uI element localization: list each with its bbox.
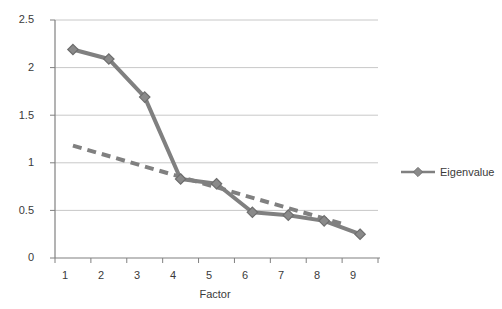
x-tick-label-1: 1 bbox=[55, 270, 75, 281]
plot-area bbox=[0, 0, 502, 309]
x-tick-label-9: 9 bbox=[343, 270, 363, 281]
y-tick-label-1.5: 1.5 bbox=[6, 110, 34, 121]
x-tick-label-4: 4 bbox=[163, 270, 183, 281]
trend-line-dashed bbox=[73, 146, 342, 224]
data-point-marker bbox=[68, 44, 78, 54]
y-tick-label-0.5: 0.5 bbox=[6, 205, 34, 216]
y-tick-label-0: 0 bbox=[6, 252, 34, 263]
y-tick-label-1: 1 bbox=[6, 157, 34, 168]
eigenvalue-line bbox=[73, 50, 360, 235]
data-point-marker bbox=[355, 229, 365, 239]
x-tick-label-6: 6 bbox=[235, 270, 255, 281]
y-tick-label-2.5: 2.5 bbox=[6, 14, 34, 25]
legend-label-eigenvalue: Eigenvalue bbox=[440, 166, 494, 178]
x-tick-label-8: 8 bbox=[307, 270, 327, 281]
scree-plot-chart: 2.5 2 1.5 1 0.5 0 1 2 3 4 5 6 7 8 9 Fact… bbox=[0, 0, 502, 309]
x-tick-label-3: 3 bbox=[127, 270, 147, 281]
x-tick-label-7: 7 bbox=[271, 270, 291, 281]
y-tick-label-2: 2 bbox=[6, 62, 34, 73]
legend-marker-icon bbox=[400, 165, 436, 179]
x-axis-title: Factor bbox=[175, 288, 255, 300]
x-tick-label-2: 2 bbox=[91, 270, 111, 281]
data-point-marker bbox=[283, 210, 293, 220]
x-tick-label-5: 5 bbox=[199, 270, 219, 281]
